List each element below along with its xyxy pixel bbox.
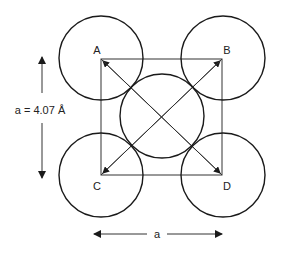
diagonal-A-to-D [101, 59, 220, 173]
vertical-dimension-label: a = 4.07 Å [15, 104, 66, 116]
corner-label-C: C [93, 180, 101, 192]
fcc-lattice-diagram: A B C D a = 4.07 Å a [0, 0, 282, 256]
corner-label-B: B [223, 44, 230, 56]
horizontal-dimension-label: a [154, 228, 161, 240]
corner-label-A: A [93, 44, 101, 56]
corner-label-D: D [223, 180, 231, 192]
